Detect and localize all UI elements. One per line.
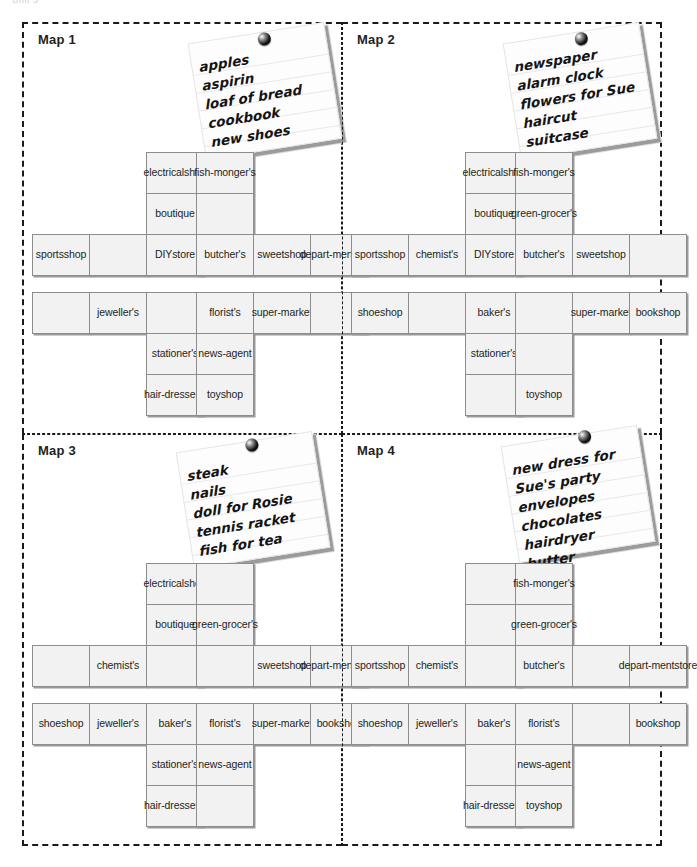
shop-cell-spacer (408, 604, 466, 646)
shop-cell[interactable]: bookshop (629, 292, 687, 334)
shop-cell[interactable]: news-agent (196, 744, 254, 786)
shop-cell[interactable]: jeweller's (89, 292, 147, 334)
shop-block: shoeshopjeweller'sbaker'sstationer'shair… (32, 703, 203, 826)
shop-cell[interactable]: toyshop (515, 785, 573, 827)
shop-cell-empty[interactable] (196, 785, 254, 827)
shop-cell-spacer (572, 152, 630, 194)
shop-cell[interactable]: chemist's (408, 645, 466, 687)
shop-cell[interactable]: toyshop (196, 374, 254, 416)
shop-block-row: shoeshopjeweller'sbaker's (351, 703, 522, 744)
shop-block: electricalshopboutiquesportsshopchemist'… (351, 152, 522, 275)
shop-cell-empty[interactable] (32, 645, 90, 687)
shop-cell-spacer (408, 193, 466, 235)
shop-cell[interactable]: shoeshop (32, 703, 90, 745)
shop-cell[interactable]: depart-mentstore (629, 645, 687, 687)
worksheet-sheet: Map 1applesaspirinloaf of breadcookbookn… (22, 22, 662, 846)
shop-cell[interactable]: jeweller's (89, 703, 147, 745)
shop-cell-spacer (572, 785, 630, 827)
shop-block-row: super-marketbookshop (515, 292, 686, 333)
shop-cell[interactable]: super-market (253, 703, 311, 745)
shop-cell-spacer (253, 374, 311, 416)
shop-cell-label-line: monger's (533, 167, 575, 179)
shop-cell[interactable]: chemist's (89, 645, 147, 687)
shop-block: fish-monger'sgreen-grocer'sbutcher'sdepa… (515, 563, 686, 686)
shop-cell[interactable]: toyshop (515, 374, 573, 416)
shop-cell[interactable]: florist's (196, 703, 254, 745)
shop-cell-label-line: hair- (144, 800, 165, 812)
shop-cell-empty[interactable] (196, 645, 254, 687)
shop-cell-label-line: agent (226, 348, 252, 360)
note-list: steaknailsdoll for Rosietennis racketfis… (176, 431, 331, 569)
shop-block: jeweller'sstationer'shair-dresser's (32, 292, 203, 415)
shop-cell[interactable]: butcher's (196, 234, 254, 276)
shop-block-row: green-grocer's (515, 193, 686, 234)
shop-block-row (351, 374, 522, 415)
shop-cell[interactable]: shoeshop (351, 292, 409, 334)
shop-cell-label-line: boutique (474, 208, 514, 220)
shop-block-row: electricalshop (32, 563, 203, 604)
shop-cell-label-line: sweet (257, 660, 284, 672)
shop-cell-empty[interactable] (408, 292, 466, 334)
shop-cell-spacer (253, 152, 311, 194)
shop-cell-spacer (572, 374, 630, 416)
shop-cell-spacer (253, 333, 311, 375)
shop-cell-label-line: green- (192, 619, 222, 631)
shop-cell-empty[interactable] (196, 193, 254, 235)
shop-cell-label-line: jeweller's (97, 307, 139, 319)
shop-cell-empty[interactable] (572, 703, 630, 745)
shop-cell-empty[interactable] (515, 333, 573, 375)
shop-cell-empty[interactable] (515, 292, 573, 334)
shop-cell-label-line: butcher's (204, 249, 245, 261)
shop-cell[interactable]: news-agent (196, 333, 254, 375)
shop-cell[interactable]: sportsshop (32, 234, 90, 276)
shop-cell-spacer (629, 744, 687, 786)
shop-cell-spacer (351, 744, 409, 786)
shop-cell-spacer (32, 193, 90, 235)
shop-cell-label-line: news- (198, 348, 226, 360)
shop-block-row: florist'sbookshop (515, 703, 686, 744)
shop-cell-label-line: electrical (463, 167, 503, 179)
shop-cell-spacer (32, 563, 90, 605)
shop-cell-label-line: butcher's (523, 660, 564, 672)
shop-cell[interactable]: jeweller's (408, 703, 466, 745)
shop-cell[interactable]: chemist's (408, 234, 466, 276)
shop-cell[interactable]: florist's (515, 703, 573, 745)
shop-cell-spacer (351, 785, 409, 827)
shop-cell[interactable]: fish-monger's (196, 152, 254, 194)
shop-cell-spacer (32, 785, 90, 827)
shop-cell[interactable]: butcher's (515, 645, 573, 687)
shop-cell-spacer (89, 604, 147, 646)
shop-block-row: electricalshop (32, 152, 203, 193)
shop-block-row: butcher'ssweetshop (515, 234, 686, 275)
shop-cell-label-line: fish- (194, 167, 213, 179)
shop-cell[interactable]: green-grocer's (515, 604, 573, 646)
shop-cell-label-line: fish- (513, 167, 532, 179)
shop-cell[interactable]: shoeshop (351, 703, 409, 745)
shop-block-row: toyshop (515, 785, 686, 826)
shop-cell[interactable]: fish-monger's (515, 152, 573, 194)
shop-cell[interactable]: florist's (196, 292, 254, 334)
shop-cell[interactable]: butcher's (515, 234, 573, 276)
shop-cell[interactable]: green-grocer's (196, 604, 254, 646)
shop-cell-label-line: green- (511, 208, 541, 220)
shop-cell[interactable]: super-market (572, 292, 630, 334)
shop-cell-label-line: toy (207, 389, 221, 401)
maps-grid: Map 1applesaspirinloaf of breadcookbookn… (22, 22, 662, 846)
shop-block-row: hair-dresser's (351, 785, 522, 826)
shop-cell[interactable]: sportsshop (351, 234, 409, 276)
shop-cell-spacer (572, 744, 630, 786)
shop-cell[interactable]: green-grocer's (515, 193, 573, 235)
shop-cell-spacer (629, 604, 687, 646)
shop-cell-empty[interactable] (89, 234, 147, 276)
shop-cell-empty[interactable] (196, 563, 254, 605)
shop-cell[interactable]: sweetshop (572, 234, 630, 276)
shop-cell-empty[interactable] (32, 292, 90, 334)
shop-cell[interactable]: fish-monger's (515, 563, 573, 605)
shop-cell[interactable]: news-agent (515, 744, 573, 786)
shop-cell-label-line: chemist's (416, 660, 459, 672)
shop-cell-label-line: chemist's (97, 660, 140, 672)
shop-cell[interactable]: sportsshop (351, 645, 409, 687)
shop-cell-empty[interactable] (629, 234, 687, 276)
shop-cell[interactable]: bookshop (629, 703, 687, 745)
shop-cell[interactable]: super-market (253, 292, 311, 334)
